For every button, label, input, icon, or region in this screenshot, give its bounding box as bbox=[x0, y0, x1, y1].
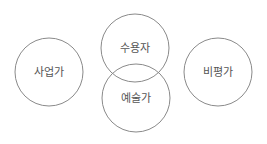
critic-label: 비평가 bbox=[203, 66, 233, 79]
entrepreneur-label: 사업가 bbox=[34, 66, 64, 79]
recipient-label: 수용자 bbox=[120, 42, 150, 55]
venn-diagram: 사업가 수용자 예술가 비평가 bbox=[0, 0, 267, 144]
node-recipient: 수용자 bbox=[101, 14, 169, 82]
node-artist: 예술가 bbox=[102, 64, 170, 132]
node-critic: 비평가 bbox=[184, 38, 252, 106]
node-entrepreneur: 사업가 bbox=[15, 38, 83, 106]
artist-label: 예술가 bbox=[121, 92, 151, 105]
